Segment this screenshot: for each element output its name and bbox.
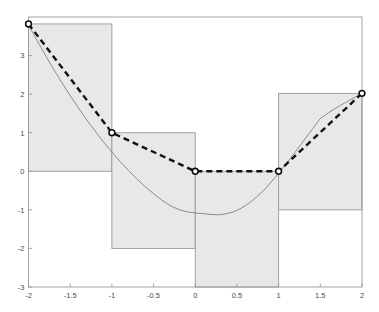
y-tick-label-2: 1	[20, 129, 24, 138]
y-tick-label-5: -2	[18, 244, 25, 253]
x-tick-label-1: -1.5	[64, 291, 77, 300]
y-tick-label-6: -3	[18, 283, 25, 292]
data-point-marker-0	[26, 21, 32, 27]
x-tick-label-4: 0	[193, 291, 197, 300]
data-point-marker-2	[192, 168, 198, 174]
x-tick-label-5: 0.5	[232, 291, 242, 300]
data-point-marker-4	[359, 90, 365, 96]
figure-container: -2-1.5-1-0.500.511.523210-1-2-3	[0, 0, 379, 312]
data-point-marker-1	[109, 130, 115, 136]
step-bar-2	[195, 171, 278, 287]
step-bar-0	[29, 24, 112, 171]
y-tick-label-1: 2	[20, 90, 24, 99]
step-bar-3	[279, 93, 362, 209]
y-tick-label-3: 0	[20, 167, 24, 176]
data-point-marker-3	[276, 168, 282, 174]
x-tick-label-2: -1	[109, 291, 116, 300]
y-tick-label-0: 3	[20, 51, 24, 60]
x-tick-label-0: -2	[25, 291, 32, 300]
x-tick-label-3: -0.5	[147, 291, 160, 300]
x-tick-label-7: 1.5	[315, 291, 325, 300]
y-tick-label-4: -1	[18, 206, 25, 215]
step-bar-1	[112, 133, 195, 249]
x-tick-label-8: 2	[360, 291, 364, 300]
x-tick-label-6: 1	[277, 291, 281, 300]
chart-canvas: -2-1.5-1-0.500.511.523210-1-2-3	[0, 0, 379, 312]
shaded-step-bars	[29, 24, 363, 287]
